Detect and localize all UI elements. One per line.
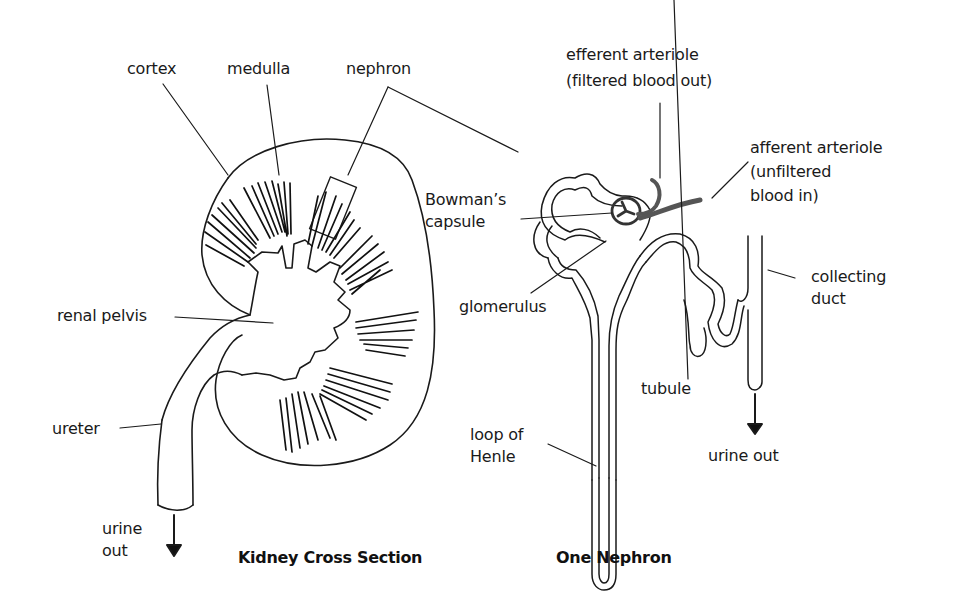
ureter [158, 371, 242, 510]
label-tubule: tubule [641, 378, 691, 400]
bowmans-capsule [612, 198, 640, 224]
label-nephron-urine-out: urine out [708, 445, 779, 467]
label-medulla: medulla [227, 58, 290, 80]
label-kidney-urine-out: urine out [102, 518, 142, 562]
nephron-urine-arrow [748, 394, 762, 434]
renal-pelvis [242, 240, 350, 380]
nephron-tubule [534, 174, 744, 590]
label-nephron: nephron [346, 58, 411, 80]
label-renal-pelvis: renal pelvis [57, 305, 147, 327]
medulla-pyramids [205, 181, 418, 452]
kidney-leader-lines [120, 84, 518, 428]
title-one-nephron: One Nephron [556, 548, 671, 567]
kidney-outline [162, 139, 435, 465]
label-ureter: ureter [52, 418, 100, 440]
label-bowmans-capsule: Bowman’s capsule [425, 189, 506, 233]
kidney-urine-arrow [167, 515, 181, 556]
label-efferent-arteriole: efferent arteriole (filtered blood out) [566, 42, 712, 94]
label-loop-of-henle: loop of Henle [470, 424, 523, 468]
label-afferent-arteriole: afferent arteriole (unfiltered blood in) [750, 136, 883, 208]
label-collecting-duct: collecting duct [811, 266, 886, 310]
label-cortex: cortex [127, 58, 176, 80]
title-kidney-cross-section: Kidney Cross Section [238, 548, 422, 567]
label-glomerulus: glomerulus [459, 296, 546, 318]
arterioles [638, 180, 700, 218]
